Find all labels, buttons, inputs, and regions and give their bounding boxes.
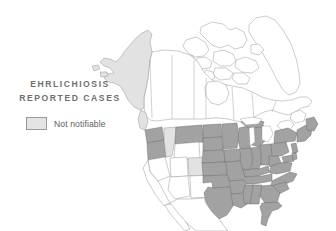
state-maine [306,117,318,131]
region-arctic-island-g [232,73,250,84]
state-new-york [274,128,297,143]
region-arctic-island-c [213,50,236,66]
state-utah [170,157,188,177]
map-title-line-2: REPORTED CASES [0,92,140,106]
state-maryland [282,155,294,163]
state-florida [260,202,282,226]
legend-swatch-not-notifiable [26,117,47,130]
state-new-jersey [291,143,298,153]
map-title-line-1: EHRLICHIOSIS [0,78,140,92]
region-arctic-island-d [235,57,259,73]
region-aleutian-b [100,72,108,77]
region-greenland [249,16,300,95]
state-oregon [147,140,166,160]
state-illinois [240,148,253,170]
state-north-dakota [203,124,222,138]
region-aleutian-a [92,65,100,71]
state-iowa [224,149,241,162]
state-idaho [164,127,176,157]
map-legend-block: EHRLICHIOSIS REPORTED CASES Not notifiab… [0,78,140,130]
state-south-dakota [203,137,223,151]
region-arctic-island-f [213,68,233,80]
legend-item-not-notifiable: Not notifiable [0,117,140,130]
state-kansas [202,162,227,176]
ehrlichiosis-map-figure: EHRLICHIOSIS REPORTED CASES Not notifiab… [0,0,336,231]
lake-huron-erie [262,126,273,142]
state-minnesota [222,123,239,149]
region-arctic-islands [200,22,247,49]
state-delaware [292,152,297,160]
state-pennsylvania [271,142,289,156]
state-arizona [168,176,190,199]
state-montana [175,125,203,144]
legend-label-not-notifiable: Not notifiable [54,119,106,129]
state-nebraska [202,150,225,163]
